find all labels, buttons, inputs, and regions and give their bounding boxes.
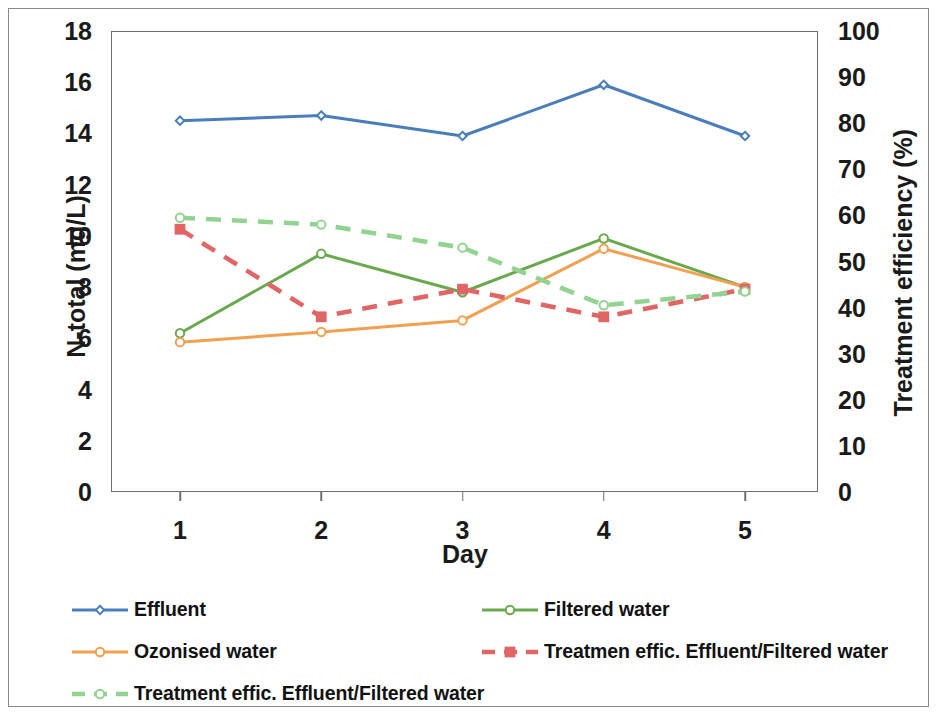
y-axis-left-tick-label: 2 xyxy=(30,428,92,453)
x-axis-tick-label: 5 xyxy=(738,518,752,543)
chart-figure: 024681012141618 0102030405060708090100 1… xyxy=(0,0,937,715)
legend-item-label: Filtered water xyxy=(544,598,669,621)
legend-line-sample-icon xyxy=(480,643,540,661)
legend-item-label: Ozonised water xyxy=(134,640,277,663)
legend-item[interactable]: Treatment effic. Effluent/Filtered water xyxy=(70,682,484,705)
y-axis-right-tick-label: 10 xyxy=(838,433,908,458)
x-axis-tick-label: 4 xyxy=(597,518,611,543)
series-4 xyxy=(175,225,749,322)
legend-item[interactable]: Ozonised water xyxy=(70,640,277,663)
y-axis-left-tick-label: 16 xyxy=(30,70,92,95)
y-axis-left-tick-label: 0 xyxy=(30,480,92,505)
legend-line-sample-icon xyxy=(70,601,130,619)
legend-item-label: Treatment effic. Effluent/Filtered water xyxy=(134,682,484,705)
chart-plot-region: 024681012141618 0102030405060708090100 1… xyxy=(0,0,937,585)
legend-line-sample-icon xyxy=(70,685,130,703)
series-layer xyxy=(111,31,818,492)
y-axis-right-title: Treatment efficiency (%) xyxy=(889,137,918,417)
series-1 xyxy=(176,81,749,141)
y-axis-right-tick-label: 0 xyxy=(838,480,908,505)
legend-item[interactable]: Treatmen effic. Effluent/Filtered water xyxy=(480,640,888,663)
legend-item-label: Effluent xyxy=(134,598,206,621)
y-axis-right-tick-label: 90 xyxy=(838,65,908,90)
y-axis-left-tick-label: 14 xyxy=(30,121,92,146)
x-axis-tick-mark xyxy=(462,492,464,501)
x-axis-title: Day xyxy=(365,540,565,569)
x-axis-tick-mark xyxy=(321,492,323,501)
y-axis-left-tick-label: 18 xyxy=(30,19,92,44)
x-axis-tick-label: 2 xyxy=(314,518,328,543)
y-axis-left-title: N-total (mg/L) xyxy=(62,157,91,397)
x-axis-tick-label: 1 xyxy=(173,518,187,543)
legend-line-sample-icon xyxy=(480,601,540,619)
y-axis-right-tick-label: 100 xyxy=(838,19,908,44)
legend-line-sample-icon xyxy=(70,643,130,661)
legend-item-label: Treatmen effic. Effluent/Filtered water xyxy=(544,640,888,663)
x-axis-tick-mark xyxy=(179,492,181,501)
legend-item[interactable]: Filtered water xyxy=(480,598,669,621)
chart-legend: EffluentFiltered waterOzonised waterTrea… xyxy=(70,598,920,703)
legend-item[interactable]: Effluent xyxy=(70,598,206,621)
x-axis-tick-mark xyxy=(603,492,605,501)
x-axis-tick-mark xyxy=(744,492,746,501)
